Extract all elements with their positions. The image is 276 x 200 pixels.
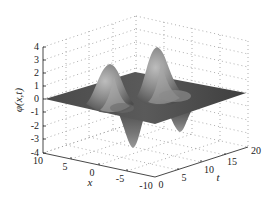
- plot-canvas: 4 3 2 1 0 -1 -2 -3 -4 10 5 0 -5 -10 0 5 …: [0, 0, 276, 200]
- t-axis-label: t: [216, 171, 220, 183]
- z-axis-label: φ(x,t): [12, 88, 25, 112]
- x-tick: 5: [63, 161, 68, 172]
- z-tick: 1: [34, 80, 39, 91]
- z-tick: -2: [31, 120, 39, 131]
- z-tick: 0: [34, 93, 39, 104]
- z-tick: -1: [31, 106, 39, 117]
- t-tick: 10: [204, 164, 214, 175]
- z-tick: -3: [31, 133, 39, 144]
- x-tick: 10: [33, 155, 43, 166]
- t-tick-labels: 0 5 10 15 20: [159, 145, 262, 190]
- x-axis-label: x: [87, 176, 93, 188]
- t-tick: 0: [159, 179, 164, 190]
- z-tick-labels: 4 3 2 1 0 -1 -2 -3 -4: [31, 41, 39, 158]
- t-tick: 20: [251, 145, 261, 156]
- z-tick: 3: [34, 54, 39, 65]
- t-tick: 5: [182, 172, 187, 183]
- t-tick: 15: [227, 156, 237, 167]
- x-tick: -10: [139, 180, 152, 191]
- z-tick: 4: [34, 41, 39, 52]
- surface: [45, 47, 246, 148]
- x-tick: -5: [116, 173, 124, 184]
- surface-plot-figure: 4 3 2 1 0 -1 -2 -3 -4 10 5 0 -5 -10 0 5 …: [0, 0, 276, 200]
- z-tick: 2: [34, 67, 39, 78]
